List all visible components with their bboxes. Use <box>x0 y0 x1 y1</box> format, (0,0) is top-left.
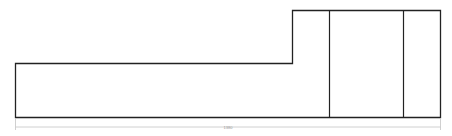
profile-drawing: 1380 <box>0 0 452 136</box>
outline <box>16 11 441 118</box>
overall-dimension-label: 1380 <box>224 125 234 130</box>
